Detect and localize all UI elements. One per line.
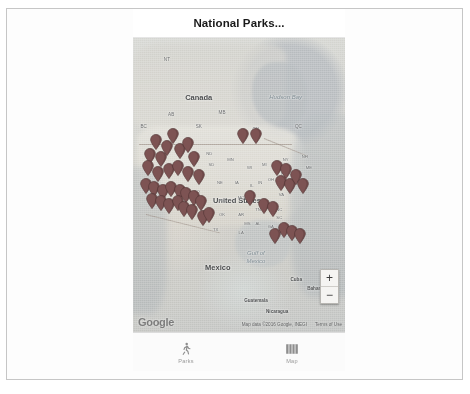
map-attribution: Map data ©2016 Google, INEGI Terms of Us…	[242, 322, 342, 327]
tab-parks[interactable]: Parks	[133, 333, 239, 371]
mobile-app-viewport: National Parks... CanadaUnited StatesMex…	[133, 9, 345, 371]
screenshot-root: National Parks... CanadaUnited StatesMex…	[0, 0, 470, 394]
walking-person-icon	[178, 341, 194, 357]
terms-of-use-link[interactable]: Terms of Use	[315, 322, 342, 327]
map-zoom-controls[interactable]: + −	[320, 269, 339, 304]
map-marker[interactable]	[182, 137, 195, 153]
map-marker[interactable]	[294, 228, 307, 244]
map-marker[interactable]	[192, 169, 205, 185]
map-marker[interactable]	[269, 228, 282, 244]
app-header: National Parks...	[133, 9, 345, 38]
water-hudson-bay	[252, 62, 307, 127]
zoom-out-button[interactable]: −	[321, 287, 338, 303]
google-logo: Google	[138, 316, 174, 328]
map-marker[interactable]	[188, 151, 201, 167]
tab-map[interactable]: Map	[239, 333, 345, 371]
map-marker[interactable]	[296, 178, 309, 194]
folded-map-icon	[284, 341, 300, 357]
bottom-tab-bar: Parks	[133, 332, 345, 371]
tab-map-label: Map	[286, 358, 297, 364]
page-title: National Parks...	[193, 17, 284, 29]
map-marker[interactable]	[243, 190, 256, 206]
tab-parks-label: Parks	[178, 358, 193, 364]
map-marker[interactable]	[203, 207, 216, 223]
map-marker[interactable]	[167, 128, 180, 144]
map-marker[interactable]	[266, 201, 279, 217]
map-canvas[interactable]: CanadaUnited StatesMexicoHudson BayGulf …	[133, 38, 345, 332]
map-marker[interactable]	[249, 128, 262, 144]
map-marker[interactable]	[237, 128, 250, 144]
map-data-credit: Map data ©2016 Google, INEGI	[242, 322, 307, 327]
zoom-in-button[interactable]: +	[321, 270, 338, 287]
